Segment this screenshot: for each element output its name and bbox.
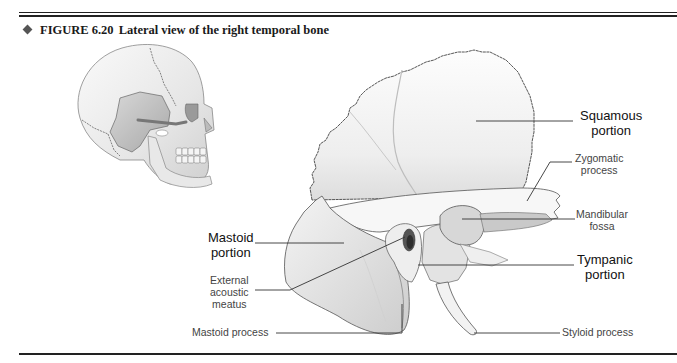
label-line: portion xyxy=(208,246,254,261)
label-line: process xyxy=(575,164,623,176)
label-mastoid-portion: Mastoid portion xyxy=(208,231,254,261)
label-line: fossa xyxy=(576,220,628,232)
bottom-rule xyxy=(19,353,677,355)
label-line: Tympanic xyxy=(577,253,633,268)
label-line: Styloid process xyxy=(562,326,633,338)
label-styloid-process: Styloid process xyxy=(562,326,633,338)
label-line: Mandibular xyxy=(576,208,628,220)
temporal-bone-illustration xyxy=(284,50,560,335)
label-line: portion xyxy=(580,124,642,139)
label-squamous-portion: Squamous portion xyxy=(580,109,642,139)
label-line: Mastoid process xyxy=(192,326,268,338)
label-external-acoustic-meatus: External acoustic meatus xyxy=(210,274,249,310)
label-line: Squamous xyxy=(580,109,642,124)
label-line: Zygomatic xyxy=(575,152,623,164)
label-line: Mastoid xyxy=(208,231,254,246)
label-tympanic-portion: Tympanic portion xyxy=(577,253,633,283)
label-mastoid-process: Mastoid process xyxy=(192,326,268,338)
skull-inset xyxy=(78,44,214,187)
label-line: External xyxy=(210,274,249,286)
label-line: acoustic xyxy=(210,286,249,298)
label-line: portion xyxy=(577,268,633,283)
label-mandibular-fossa: Mandibular fossa xyxy=(576,208,628,232)
label-line: meatus xyxy=(210,298,249,310)
label-zygomatic-process: Zygomatic process xyxy=(575,152,623,176)
illustration-canvas xyxy=(0,0,677,363)
